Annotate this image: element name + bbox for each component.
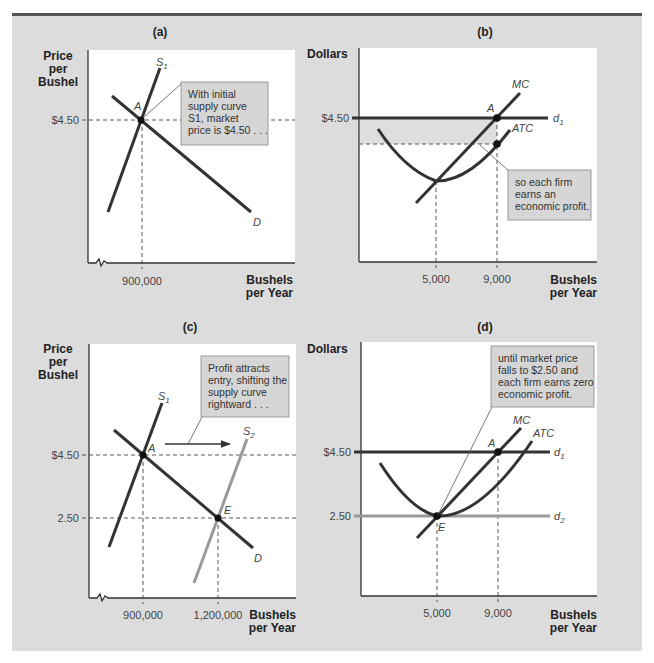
panel-a-a-label: A — [133, 100, 141, 112]
panel-b-title: (b) — [477, 25, 492, 39]
panel-b-ylabel: Dollars — [307, 47, 348, 61]
panel-a-ylabel-2: per — [49, 62, 68, 76]
panel-b: (b) Dollars $4.50 5,000 9,000 Bushels pe… — [307, 25, 597, 300]
panel-b-xtick-2: 9,000 — [483, 273, 511, 285]
panel-d-callout-line-1: until market price — [498, 352, 578, 364]
panel-b-point-atc — [493, 140, 501, 148]
panel-d-ytick-1: $4.50 — [323, 446, 351, 458]
panel-a-xlabel-2: per Year — [246, 286, 293, 300]
panel-c-ylabel-2: per — [49, 355, 68, 369]
panel-b-plot-area — [359, 48, 597, 262]
panel-c-point-e — [215, 515, 222, 522]
panel-d-callout-line-3: each firm earns zero — [498, 376, 594, 388]
panel-a-title: (a) — [153, 25, 168, 39]
panel-c-e-label: E — [224, 504, 232, 516]
panel-c: (c) Price per Bushel $4.50 2.50 900,000 … — [38, 320, 296, 635]
panel-c-d-label: D — [254, 552, 262, 564]
panel-b-callout-line-2: earns an — [515, 188, 556, 200]
panel-d-callout-line-2: falls to $2.50 and — [498, 364, 578, 376]
panel-b-atc-label: ATC — [511, 122, 533, 134]
panel-d-xlabel-2: per Year — [550, 621, 597, 635]
panel-c-callout-line-1: Profit attracts — [208, 362, 270, 374]
panel-d-e-label: E — [438, 521, 446, 533]
panel-d-point-e — [433, 512, 441, 520]
panel-b-a-label: A — [486, 102, 494, 114]
panel-a-xlabel-1: Bushels — [246, 273, 293, 287]
panel-d: (d) Dollars $4.50 2.50 5,000 9,000 Bushe… — [307, 320, 597, 635]
figure: (a) Price per Bushel $4.50 900,000 Bushe… — [0, 0, 654, 663]
panel-c-ylabel-1: Price — [43, 342, 73, 356]
panel-d-ytick-2: 2.50 — [330, 510, 351, 522]
panel-c-ytick-2: 2.50 — [58, 512, 79, 524]
panel-a-ytick: $4.50 — [51, 114, 79, 126]
panel-c-xlabel-2: per Year — [249, 621, 296, 635]
panel-c-xlabel-1: Bushels — [249, 608, 296, 622]
panel-d-xtick-1: 5,000 — [423, 607, 451, 619]
panel-c-callout-line-3: supply curve — [208, 386, 267, 398]
panel-a-callout-line-4: price is $4.50 . . . — [188, 124, 268, 136]
panel-a: (a) Price per Bushel $4.50 900,000 Bushe… — [38, 25, 295, 300]
panel-c-xtick-2: 1,200,000 — [194, 609, 243, 621]
panel-c-a-label: A — [147, 442, 155, 454]
panel-b-xlabel-2: per Year — [550, 286, 597, 300]
panel-d-title: (d) — [477, 320, 492, 334]
panel-d-mc-label: MC — [513, 414, 530, 426]
panel-d-ylabel: Dollars — [307, 342, 348, 356]
panel-b-callout-line-3: economic profit. — [515, 200, 589, 212]
panel-c-callout-line-4: rightward . . . — [208, 398, 269, 410]
panel-b-ytick: $4.50 — [321, 112, 349, 124]
panel-a-callout-line-1: With initial — [188, 88, 236, 100]
panel-d-callout-line-4: economic profit. — [498, 388, 572, 400]
panel-a-ylabel-1: Price — [43, 49, 73, 63]
panel-b-xlabel-1: Bushels — [550, 273, 597, 287]
panel-c-title: (c) — [183, 320, 198, 334]
panel-a-callout-line-2: supply curve — [188, 100, 247, 112]
panel-c-ylabel-3: Bushel — [38, 368, 78, 382]
panel-a-d-label: D — [253, 216, 261, 228]
panel-b-mc-label: MC — [512, 78, 529, 90]
panel-a-ylabel-3: Bushel — [38, 75, 78, 89]
panel-b-xtick-1: 5,000 — [422, 273, 450, 285]
panel-d-xtick-2: 9,000 — [484, 607, 512, 619]
panel-a-callout-line-3: S1, market — [188, 112, 239, 124]
panel-c-xtick-1: 900,000 — [123, 609, 163, 621]
panel-d-xlabel-1: Bushels — [550, 608, 597, 622]
panel-b-point-a — [493, 114, 501, 122]
panel-c-callout-line-2: entry, shifting the — [208, 374, 287, 386]
panel-b-callout-line-1: so each firm — [515, 176, 572, 188]
panel-d-atc-label: ATC — [532, 427, 554, 439]
panel-c-point-a — [140, 452, 147, 459]
panel-d-point-a — [494, 448, 502, 456]
panel-a-xtick: 900,000 — [122, 275, 162, 287]
panel-c-ytick-1: $4.50 — [51, 449, 79, 461]
panel-d-a-label: A — [487, 437, 495, 449]
